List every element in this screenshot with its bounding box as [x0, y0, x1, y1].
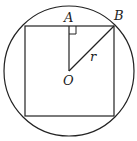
geometry-diagram: A B O r	[0, 0, 137, 141]
right-angle-marker	[69, 26, 76, 34]
label-r: r	[90, 49, 97, 64]
label-O: O	[63, 73, 74, 88]
label-A: A	[63, 10, 73, 25]
label-B: B	[113, 8, 124, 23]
